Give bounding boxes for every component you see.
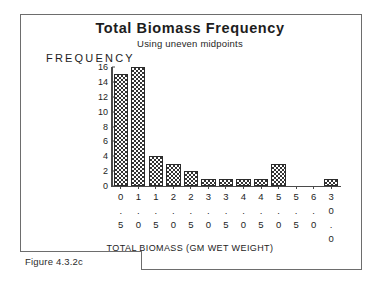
x-tick-label-char: 5 — [223, 218, 228, 232]
bar — [114, 74, 128, 186]
chart-title: Total Biomass Frequency — [0, 20, 380, 36]
bar-slot — [252, 67, 270, 186]
x-tick-label-char: 5 — [118, 218, 123, 232]
x-tick-label-char: . — [190, 204, 193, 218]
x-tick-label-char: 5 — [293, 190, 298, 204]
x-tick-label-char: 0 — [118, 190, 123, 204]
x-tick-label-char: 1 — [153, 190, 158, 204]
x-tick-label-char: . — [295, 204, 298, 218]
plot-area: 0246810121416 — [112, 67, 340, 186]
y-tick-label: 2 — [103, 166, 112, 176]
x-tick-label-char: 5 — [293, 218, 298, 232]
bar — [166, 164, 180, 186]
x-tick-label-char: . — [260, 204, 263, 218]
y-tick-label: 4 — [103, 151, 112, 161]
x-tick-label: 4.5 — [252, 190, 270, 236]
y-tick-label: 10 — [98, 107, 112, 117]
bar-slot — [130, 67, 148, 186]
x-tick-mark — [313, 186, 314, 189]
x-tick-label-char: 6 — [311, 190, 316, 204]
x-tick-mark — [261, 186, 262, 189]
x-tick-mark — [331, 186, 332, 189]
bar-series — [112, 67, 340, 186]
bar — [236, 179, 250, 186]
bar — [131, 67, 145, 186]
x-tick-label-char: 5 — [188, 218, 193, 232]
x-tick-mark — [296, 186, 297, 189]
x-tick-mark — [120, 186, 121, 189]
x-tick-label-char: . — [172, 204, 175, 218]
y-tick-label: 0 — [103, 181, 112, 191]
x-tick-mark — [155, 186, 156, 189]
bar — [324, 179, 338, 186]
x-tick-mark — [190, 186, 191, 189]
x-tick-label: 2.5 — [182, 190, 200, 236]
bar — [271, 164, 285, 186]
y-tick-label: 14 — [98, 77, 112, 87]
x-tick-label-char: 0 — [276, 218, 281, 232]
x-tick-label-char: . — [155, 204, 158, 218]
y-axis-label: FREQUENCY — [46, 52, 135, 64]
x-tick-mark — [173, 186, 174, 189]
bar — [254, 179, 268, 186]
x-tick-label: 6.0 — [305, 190, 323, 236]
x-tick-label-char: 2 — [188, 190, 193, 204]
x-tick-label-char: 5 — [153, 218, 158, 232]
x-tick-label-char: 2 — [171, 190, 176, 204]
bar-slot — [200, 67, 218, 186]
x-tick-label: 4.0 — [235, 190, 253, 236]
x-tick-label: 0.5 — [112, 190, 130, 236]
bar — [184, 171, 198, 186]
x-tick-label-char: . — [277, 204, 280, 218]
bar-slot — [270, 67, 288, 186]
x-tick-label-char: 0 — [171, 218, 176, 232]
x-tick-mark — [208, 186, 209, 189]
x-tick-label-char: . — [207, 204, 210, 218]
figure-caption: Figure 4.3.2c — [25, 256, 83, 267]
x-tick-label-char: . — [242, 204, 245, 218]
x-tick-label-char: 1 — [136, 190, 141, 204]
x-tick-label-char: 5 — [276, 190, 281, 204]
x-tick-label-char: . — [312, 204, 315, 218]
x-tick-mark — [243, 186, 244, 189]
x-tick-mark — [225, 186, 226, 189]
x-tick-label: 2.0 — [165, 190, 183, 236]
x-tick-label-char: 4 — [258, 190, 263, 204]
bar-slot — [147, 67, 165, 186]
bar-slot — [322, 67, 340, 186]
y-tick-label: 12 — [98, 92, 112, 102]
bar-slot — [217, 67, 235, 186]
x-tick-label-char: 4 — [241, 190, 246, 204]
figure-root: Total Biomass Frequency Using uneven mid… — [0, 0, 380, 284]
bar — [201, 179, 215, 186]
x-tick-label-char: . — [225, 204, 228, 218]
x-tick-label-char: 0 — [136, 218, 141, 232]
x-tick-label: 5.5 — [287, 190, 305, 236]
y-tick-label: 16 — [98, 62, 112, 72]
bar-slot — [165, 67, 183, 186]
x-tick-label-char: 0 — [241, 218, 246, 232]
bar-slot — [235, 67, 253, 186]
x-axis-tick-labels: 0.51.01.52.02.53.03.54.04.55.05.56.030.0 — [112, 190, 340, 236]
x-tick-mark — [138, 186, 139, 189]
x-tick-label-char: 3 — [223, 190, 228, 204]
x-tick-label: 1.0 — [130, 190, 148, 236]
x-tick-label: 5.0 — [270, 190, 288, 236]
x-tick-label-char: 5 — [258, 218, 263, 232]
bar-slot — [182, 67, 200, 186]
x-tick-label-char: . — [137, 204, 140, 218]
chart-subtitle: Using uneven midpoints — [0, 38, 380, 49]
x-tick-mark — [278, 186, 279, 189]
x-tick-label: 1.5 — [147, 190, 165, 236]
x-tick-label-char: 3 — [328, 190, 333, 204]
x-tick-label: 3.5 — [217, 190, 235, 236]
y-tick-label: 6 — [103, 136, 112, 146]
x-tick-label-char: . — [330, 218, 333, 232]
y-tick-label: 8 — [103, 122, 112, 132]
x-tick-label-char: 0 — [328, 204, 333, 218]
x-tick-label-char: 0 — [206, 218, 211, 232]
figure-caption-box: Figure 4.3.2c — [20, 251, 142, 270]
bar-slot — [287, 67, 305, 186]
x-tick-label-char: . — [119, 204, 122, 218]
x-tick-label-char: 0 — [311, 218, 316, 232]
